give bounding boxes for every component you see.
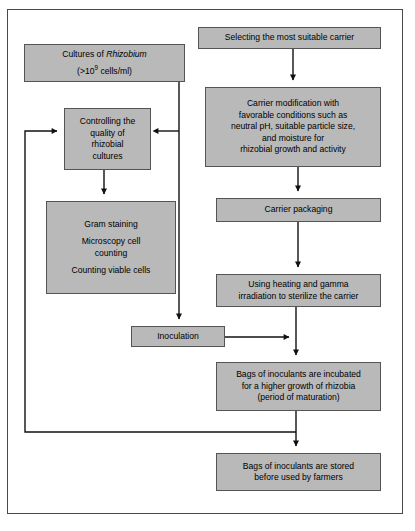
- bags-incubated-line-1: Bags of inoculants are incubated: [236, 369, 361, 381]
- carrier-modification-line-3: neutral pH, suitable particle size,: [231, 121, 355, 133]
- node-cultures-rhizobium-line2: (>109 cells/ml): [77, 66, 132, 78]
- node-carrier-packaging[interactable]: Carrier packaging: [216, 198, 381, 222]
- genus-name-italic: Rhizobium: [106, 49, 147, 59]
- inoculation-label: Inoculation: [157, 331, 199, 343]
- node-cultures-rhizobium-line1: Cultures of Rhizobium: [62, 49, 147, 61]
- node-cultures-rhizobium[interactable]: Cultures of Rhizobium (>109 cells/ml): [24, 44, 185, 82]
- node-bags-incubated[interactable]: Bags of inoculants are incubated for a h…: [216, 362, 381, 411]
- node-controlling-quality[interactable]: Controlling the quality of rhizobial cul…: [64, 108, 151, 170]
- counting-viable-cells-label: Counting viable cells: [72, 265, 151, 277]
- controlling-quality-line-2: quality of: [90, 128, 124, 140]
- bags-incubated-line-3: (period of maturation): [257, 392, 339, 404]
- bags-incubated-line-2: for a higher growth of rhizobia: [242, 381, 356, 393]
- node-sterilize-carrier[interactable]: Using heating and gamma irradiation to s…: [216, 274, 381, 307]
- carrier-modification-line-5: rhizobial growth and activity: [240, 144, 346, 156]
- controlling-quality-line-3: rhizobial: [91, 139, 123, 151]
- cell-count-suffix: cells/ml): [98, 66, 132, 76]
- controlling-quality-line-4: cultures: [92, 151, 122, 163]
- flowchart-canvas: Selecting the most suitable carrier Cult…: [0, 0, 415, 531]
- sterilize-carrier-line-2: irradiation to sterilize the carrier: [239, 291, 359, 303]
- carrier-modification-line-2: favorable conditions such as: [239, 110, 347, 122]
- node-gram-staining[interactable]: Gram staining Microscopy cell counting C…: [46, 201, 176, 294]
- carrier-packaging-label: Carrier packaging: [265, 204, 333, 216]
- cultures-prefix-text: Cultures of: [62, 49, 106, 59]
- carrier-modification-line-1: Carrier modification with: [247, 98, 339, 110]
- gram-staining-label: Gram staining: [84, 219, 138, 231]
- node-bags-stored[interactable]: Bags of inoculants are stored before use…: [216, 453, 381, 491]
- microscopy-cell-counting-line-1: Microscopy cell: [82, 236, 141, 248]
- carrier-modification-line-4: and moisture for: [262, 133, 324, 145]
- sterilize-carrier-line-1: Using heating and gamma: [248, 279, 348, 291]
- controlling-quality-line-1: Controlling the: [80, 116, 135, 128]
- microscopy-cell-counting-line-2: counting: [95, 248, 128, 260]
- bags-stored-line-1: Bags of inoculants are stored: [243, 461, 354, 473]
- node-inoculation[interactable]: Inoculation: [131, 326, 225, 347]
- node-selecting-carrier[interactable]: Selecting the most suitable carrier: [198, 27, 381, 49]
- cell-count-prefix: (>10: [77, 66, 94, 76]
- node-carrier-modification[interactable]: Carrier modification with favorable cond…: [205, 87, 381, 167]
- bags-stored-line-2: before used by farmers: [254, 472, 342, 484]
- node-selecting-carrier-label: Selecting the most suitable carrier: [225, 32, 354, 44]
